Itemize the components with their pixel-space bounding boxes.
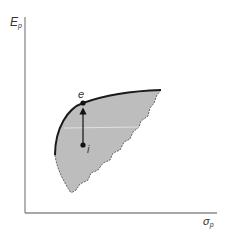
feasible-region <box>55 90 161 193</box>
y-axis-symbol: E <box>10 15 18 29</box>
x-axis-subscript: p <box>210 221 214 228</box>
point-i-label: i <box>87 144 89 155</box>
y-axis-subscript: p <box>18 22 22 29</box>
point-i <box>80 142 85 147</box>
x-axis-label: σp <box>203 216 214 228</box>
point-e-label: e <box>78 89 84 100</box>
point-e <box>80 100 85 105</box>
x-axis-symbol: σ <box>203 215 210 227</box>
efficient-frontier-diagram <box>0 0 227 233</box>
y-axis-label: Ep <box>10 16 22 29</box>
